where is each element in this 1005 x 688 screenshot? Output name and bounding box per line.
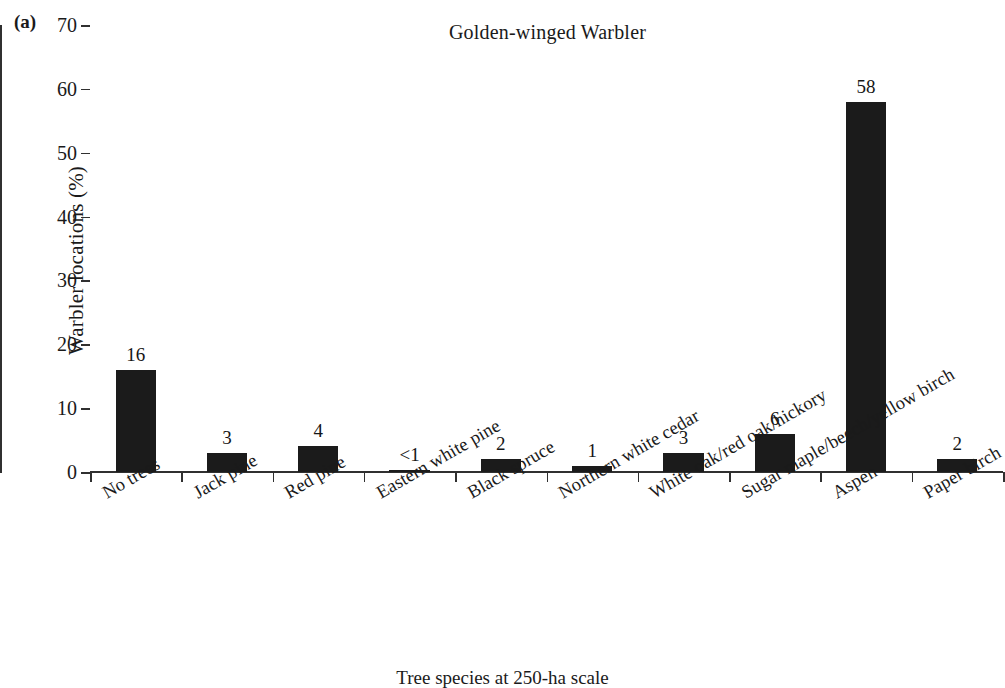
y-axis-tick [81, 408, 90, 410]
panel-letter: (a) [14, 12, 36, 31]
y-axis-tick-label: 70 [57, 15, 77, 35]
x-axis-tick [181, 472, 183, 482]
bar-value-label: 16 [126, 345, 145, 364]
y-axis-line [0, 25, 2, 473]
bar-value-label: 2 [496, 434, 506, 453]
x-axis-tick [638, 472, 640, 482]
y-axis-tick [81, 89, 90, 91]
y-axis-tick [81, 217, 90, 219]
bar-value-label: 2 [953, 434, 963, 453]
x-axis-tick [547, 472, 549, 482]
y-axis-tick [81, 25, 90, 27]
y-axis-tick-label: 40 [57, 207, 77, 227]
x-axis-tick [455, 472, 457, 482]
y-axis-tick [81, 153, 90, 155]
bar-value-label: 4 [314, 421, 324, 440]
plot-area: 010203040506070 1634<12136582 [90, 25, 1003, 472]
y-axis-tick [81, 472, 90, 474]
x-axis-title: Tree species at 250-ha scale [0, 668, 1005, 687]
y-axis-tick-label: 20 [57, 334, 77, 354]
x-axis-tick [364, 472, 366, 482]
x-axis-tick [912, 472, 914, 482]
y-axis-tick [81, 280, 90, 282]
x-axis-tick [820, 472, 822, 482]
x-axis-tick [729, 472, 731, 482]
y-axis-tick-label: 0 [67, 462, 77, 482]
y-axis-tick-label: 50 [57, 143, 77, 163]
y-axis-tick-label: 10 [57, 398, 77, 418]
bar-value-label: 58 [857, 77, 876, 96]
x-axis-tick [90, 472, 92, 482]
x-axis-tick [273, 472, 275, 482]
x-axis-tick [1003, 472, 1005, 482]
bar-value-label: 1 [587, 441, 597, 460]
y-axis-tick [81, 344, 90, 346]
y-axis-tick-label: 30 [57, 270, 77, 290]
y-axis-tick-label: 60 [57, 79, 77, 99]
bar-value-label: 3 [222, 428, 232, 447]
